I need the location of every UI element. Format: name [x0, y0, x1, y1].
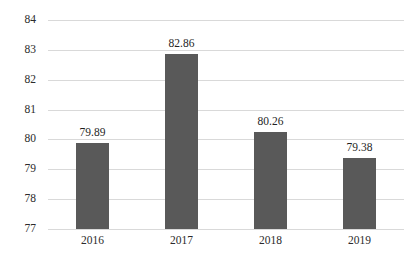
bar-2019	[343, 158, 376, 229]
y-axis: 8483828180797877	[0, 20, 44, 229]
bar-2018	[254, 132, 287, 229]
y-axis-tick-label: 77	[25, 223, 37, 235]
y-axis-tick-label: 80	[25, 134, 37, 146]
x-axis-tick-label-2017: 2017	[170, 235, 193, 247]
bar-value-label-2019: 79.38	[347, 142, 373, 154]
y-axis-tick-label: 79	[25, 164, 37, 176]
bar-2016	[76, 143, 109, 229]
gridline	[48, 229, 404, 230]
y-axis-tick-label: 81	[25, 104, 37, 116]
x-axis-tick-label-2018: 2018	[259, 235, 282, 247]
bar-chart: 8483828180797877 79.8982.8680.2679.38 20…	[0, 0, 416, 265]
x-axis-tick-label-2019: 2019	[348, 235, 371, 247]
x-axis: 2016201720182019	[48, 233, 404, 257]
bar-value-label-2018: 80.26	[258, 116, 284, 128]
bar-value-label-2016: 79.89	[80, 127, 106, 139]
y-axis-tick-label: 78	[25, 193, 37, 205]
bar-value-label-2017: 82.86	[169, 38, 195, 50]
y-axis-tick-label: 82	[25, 74, 37, 86]
x-axis-tick-label-2016: 2016	[81, 235, 104, 247]
bars-layer: 79.8982.8680.2679.38	[48, 20, 404, 229]
y-axis-tick-label: 84	[25, 14, 37, 26]
y-axis-tick-label: 83	[25, 44, 37, 56]
bar-2017	[165, 54, 198, 229]
